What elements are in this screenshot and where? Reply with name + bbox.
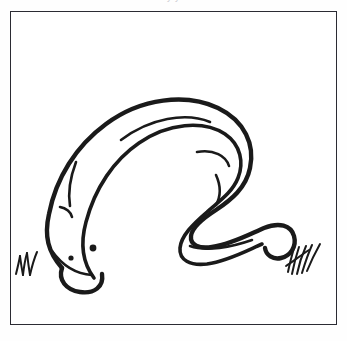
snake-head-outline (61, 268, 102, 292)
snake-figure (47, 100, 295, 293)
grass-tuft-left (16, 252, 37, 275)
snake-highlight-line-neck (69, 162, 76, 206)
snake-body-inner-edge (83, 125, 262, 278)
coloring-page: y y (0, 0, 347, 341)
snake-eye-dot (68, 255, 73, 260)
snake-neck-notch (60, 207, 72, 217)
snake-illustration (0, 0, 347, 341)
snake-highlight-line-mid (197, 151, 229, 166)
snake-nostril-mark (90, 245, 97, 252)
snake-highlight-line-bend (216, 175, 220, 205)
